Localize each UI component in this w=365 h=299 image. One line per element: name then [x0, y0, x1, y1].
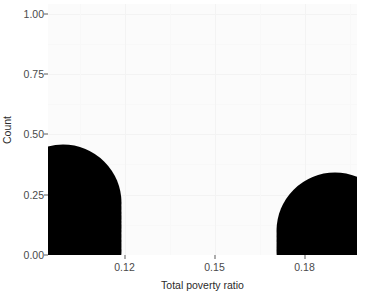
x-axis-tick-label: 0.18: [294, 261, 314, 273]
x-axis-tick-mark: [124, 255, 125, 259]
x-axis-tick-mark: [304, 255, 305, 259]
y-axis-tick-label: 0.00: [14, 249, 44, 261]
x-axis-tick-label: 0.12: [114, 261, 134, 273]
x-axis-tick-mark: [214, 255, 215, 259]
gridline-horizontal-major: [48, 134, 357, 135]
data-point-dot: [277, 173, 357, 255]
y-axis-tick-label: 1.00: [14, 8, 44, 20]
gridline-horizontal-minor: [48, 104, 357, 105]
chart-figure: Count 0.000.250.500.751.00 0.120.150.18 …: [0, 0, 365, 299]
gridline-vertical-major: [215, 4, 216, 255]
x-axis-title: Total poverty ratio: [48, 279, 357, 291]
y-axis-tick-label: 0.50: [14, 128, 44, 140]
gridline-vertical-minor: [260, 4, 261, 255]
gridline-horizontal-major: [48, 74, 357, 75]
x-axis-tick-marks: [48, 255, 357, 259]
plot-panel: [48, 4, 357, 255]
gridline-vertical-minor: [170, 4, 171, 255]
y-axis-tick-labels: 0.000.250.500.751.00: [14, 0, 44, 259]
y-axis-title: Count: [0, 0, 14, 259]
gridline-horizontal-major: [48, 14, 357, 15]
y-axis-title-text: Count: [1, 115, 13, 143]
x-axis-tick-labels: 0.120.150.18: [48, 261, 357, 275]
y-axis-tick-label: 0.75: [14, 68, 44, 80]
gridline-horizontal-minor: [48, 44, 357, 45]
y-axis-tick-label: 0.25: [14, 189, 44, 201]
x-axis-tick-label: 0.15: [204, 261, 224, 273]
gridline-vertical-major: [125, 4, 126, 255]
